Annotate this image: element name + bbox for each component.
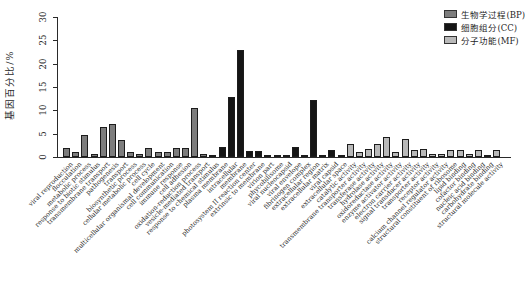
- bar-nucleic-acid-binding: [475, 150, 482, 157]
- legend-label-bp: 生物学过程(BP): [461, 8, 525, 20]
- bar-cellular-metabolic-process: [136, 154, 143, 157]
- bar-transporter-activity: [420, 149, 427, 157]
- bar-metabolic-process: [81, 135, 88, 157]
- y-tick-mark: [53, 40, 57, 41]
- bar-electron-carrier-activity: [402, 139, 409, 157]
- bar-extracellular-region: [310, 100, 317, 157]
- bar-cell-cycle: [145, 148, 152, 157]
- bar-viral-envelope: [292, 147, 299, 157]
- bar-cofactor-binding: [466, 154, 473, 157]
- bar-extrinsic-to-membrane: [255, 151, 262, 157]
- bar-oxidoreductase-activity: [383, 137, 390, 157]
- y-tick-label: 10: [38, 102, 48, 118]
- y-axis-line: [57, 17, 58, 158]
- bar-viral-nucleocapsid: [283, 155, 290, 157]
- bar-virion-part: [264, 155, 271, 157]
- bar-cell-communication: [164, 152, 171, 157]
- y-tick-mark: [53, 157, 57, 158]
- bar-cell-adhesion: [182, 148, 189, 157]
- bar-phycobilisome: [274, 155, 281, 157]
- bar-multicellular-organismal-development: [155, 152, 162, 157]
- bar-viral-reproduction: [63, 148, 70, 157]
- bar-viral-capsid: [328, 150, 335, 157]
- bar-extracellular-space: [338, 155, 345, 157]
- y-tick-mark: [53, 110, 57, 111]
- x-axis-line: [57, 157, 511, 158]
- bar-pathogenesis: [109, 124, 116, 157]
- legend-swatch-cc: [444, 23, 457, 31]
- bar-vesicle-mediated-transport: [200, 154, 207, 157]
- bar-immune-response: [173, 148, 180, 157]
- bar-structural-constituent-of-ribosome: [447, 150, 454, 157]
- legend-label-cc: 细胞组分(CC): [461, 21, 517, 33]
- legend-item-bp: 生物学过程(BP): [444, 8, 525, 19]
- y-tick-label: 5: [38, 126, 48, 142]
- bar-catalytic-activity: [347, 144, 354, 157]
- y-tick-label: 20: [38, 56, 48, 72]
- bar-photosystem-ii-reaction-center: [246, 151, 253, 157]
- bar-structural-molecule-activity: [493, 150, 500, 157]
- bar-biosynthetic-process: [127, 152, 134, 157]
- y-tick-label: 15: [38, 79, 48, 95]
- y-tick-mark: [53, 17, 57, 18]
- y-tick-label: 0: [38, 149, 48, 165]
- go-annotation-bar-chart: 基因百分比/% 051015202530 viral reproductionf…: [0, 0, 531, 296]
- bar-transferase-activity: [365, 149, 372, 157]
- bar-fibrinogen-complex: [301, 155, 308, 157]
- bar-transport: [118, 140, 125, 157]
- bar-plasma-membrane: [219, 147, 226, 157]
- bar-membrane: [237, 50, 244, 157]
- bar-response-to-chemical-stimulus: [209, 155, 216, 157]
- bar-extracellular-matrix: [319, 155, 326, 157]
- bar-transmembrane-transport: [100, 127, 107, 157]
- y-tick-mark: [53, 87, 57, 88]
- bar-receptor-activity: [429, 154, 436, 157]
- bar-signal-transducer-activity: [411, 150, 418, 157]
- legend-swatch-mf: [444, 36, 457, 44]
- bar-calcium-channel-regulator-activity: [438, 154, 445, 157]
- y-tick-label: 25: [38, 32, 48, 48]
- legend-item-mf: 分子功能(MF): [444, 34, 525, 45]
- y-tick-label: 30: [38, 9, 48, 25]
- y-axis-title: 基因百分比/%: [2, 50, 16, 120]
- bar-hydrolase-activity: [374, 144, 381, 157]
- bar-carbohydrate-binding: [484, 155, 491, 157]
- bar-flocculation: [72, 152, 79, 157]
- y-tick-mark: [53, 134, 57, 135]
- bar-enzyme-activator-activity: [392, 152, 399, 157]
- legend: 生物学过程(BP) 细胞组分(CC) 分子功能(MF): [444, 8, 525, 47]
- bar-intracellular: [228, 97, 235, 157]
- bar-transmembrane-transporter-activity: [356, 152, 363, 157]
- bar-oxidation-reduction-process: [191, 108, 198, 157]
- legend-item-cc: 细胞组分(CC): [444, 21, 525, 32]
- legend-swatch-bp: [444, 10, 457, 18]
- bar-lipid-binding: [457, 150, 464, 157]
- legend-label-mf: 分子功能(MF): [461, 34, 518, 46]
- bar-response-to-biotic-stimulus: [91, 154, 98, 157]
- y-tick-mark: [53, 64, 57, 65]
